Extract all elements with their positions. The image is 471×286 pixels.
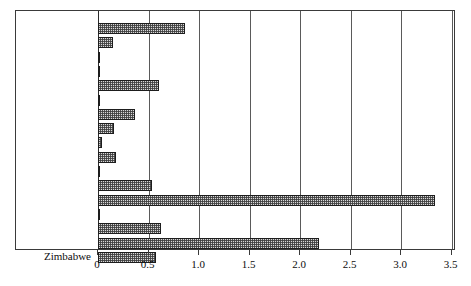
bar-row [16, 108, 454, 122]
bar-philippines [98, 180, 152, 191]
bar-japan [98, 137, 102, 148]
x-axis-label-3.0: 3.0 [393, 258, 407, 270]
bar-row [16, 151, 454, 165]
bar-cyprus [98, 66, 100, 77]
bar-south-africa [98, 195, 435, 206]
bars-container [16, 11, 454, 249]
bar-row [16, 122, 454, 136]
bar-india [98, 109, 135, 120]
bar-row [16, 136, 454, 150]
bar-ussr [98, 238, 319, 249]
bar-row [16, 251, 454, 265]
bar-row [16, 208, 454, 222]
bar-chart: AlbaniaBrazilCubaCyprusFinlandGreeceIndi… [0, 0, 471, 286]
bar-sudan [98, 209, 100, 220]
bar-row [16, 237, 454, 251]
bar-row [16, 79, 454, 93]
bar-row [16, 179, 454, 193]
bar-finland [98, 80, 159, 91]
x-axis-tick-3.5 [451, 250, 452, 255]
bar-row [16, 222, 454, 236]
bar-row [16, 51, 454, 65]
x-axis-tick-1.5 [249, 250, 250, 255]
bar-row [16, 194, 454, 208]
bar-cuba [98, 52, 100, 63]
bar-row [16, 36, 454, 50]
x-axis-tick-0 [97, 250, 98, 255]
bar-pakistan [98, 166, 100, 177]
x-axis-label-1.0: 1.0 [191, 258, 205, 270]
bar-row [16, 65, 454, 79]
x-axis-tick-2.5 [350, 250, 351, 255]
bar-turkey [98, 223, 161, 234]
bar-brazil [98, 37, 113, 48]
bar-row [16, 94, 454, 108]
x-axis-tick-3.0 [400, 250, 401, 255]
x-axis-label-2.5: 2.5 [343, 258, 357, 270]
bar-row [16, 165, 454, 179]
x-axis-label-0: 0 [94, 258, 100, 270]
x-axis-label-2.0: 2.0 [292, 258, 306, 270]
bar-malagasy-rep [98, 152, 116, 163]
x-axis-label-0.5: 0.5 [141, 258, 155, 270]
x-axis-label-1.5: 1.5 [242, 258, 256, 270]
bar-albania [98, 23, 185, 34]
x-axis-tick-2.0 [299, 250, 300, 255]
plot-area [15, 10, 455, 250]
bar-row [16, 22, 454, 36]
x-axis-tick-0.5 [148, 250, 149, 255]
bar-greece [98, 95, 100, 106]
bar-iran [98, 123, 114, 134]
x-axis-label-3.5: 3.5 [444, 258, 458, 270]
x-axis-tick-1.0 [198, 250, 199, 255]
